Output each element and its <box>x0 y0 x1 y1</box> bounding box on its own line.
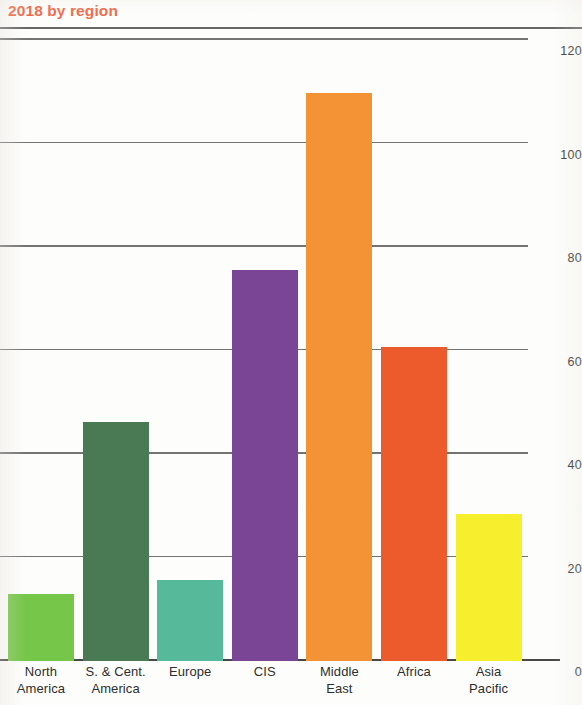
x-axis-label-line1: Africa <box>397 664 431 679</box>
x-axis-label-6: AsiaPacific <box>447 664 531 697</box>
x-axis-label-line2: America <box>74 681 158 698</box>
x-axis-label-line1: CIS <box>254 664 276 679</box>
bar-s-cent-america[interactable] <box>83 422 149 661</box>
bar-asia-pacific[interactable] <box>456 514 522 661</box>
x-axis-label-line1: Europe <box>169 664 212 679</box>
x-axis-label-3: CIS <box>223 664 307 681</box>
bar-cis[interactable] <box>232 270 298 661</box>
x-axis-label-0: NorthAmerica <box>0 664 83 697</box>
x-axis-label-4: MiddleEast <box>297 664 381 697</box>
x-axis-label-2: Europe <box>148 664 232 681</box>
title-divider <box>0 27 582 29</box>
bar-north-america[interactable] <box>8 594 74 661</box>
x-axis-label-line1: North <box>25 664 57 679</box>
x-axis-label-1: S. & Cent.America <box>74 664 158 697</box>
bar-chart-figure: 2018 by region 020406080100120 NorthAmer… <box>0 0 582 705</box>
x-axis-label-line1: Middle <box>320 664 359 679</box>
x-axis-labels: NorthAmericaS. & Cent.AmericaEuropeCISMi… <box>0 664 582 705</box>
bar-africa[interactable] <box>381 347 447 661</box>
bar-middle-east[interactable] <box>306 93 372 661</box>
x-axis-label-5: Africa <box>372 664 456 681</box>
x-axis-label-line1: S. & Cent. <box>85 664 145 679</box>
x-axis-label-line2: East <box>297 681 381 698</box>
x-axis-label-line2: America <box>0 681 83 698</box>
x-axis-label-line1: Asia <box>476 664 502 679</box>
bar-europe[interactable] <box>157 580 223 661</box>
chart-title: 2018 by region <box>8 2 118 20</box>
x-axis-label-line2: Pacific <box>447 681 531 698</box>
bars-layer <box>0 38 582 661</box>
